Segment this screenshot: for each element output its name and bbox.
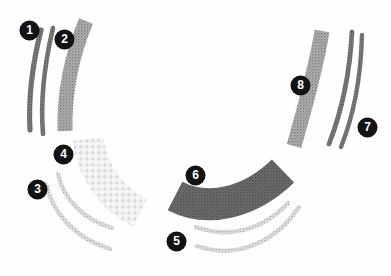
band-marker-3-label: 3: [34, 182, 41, 196]
band-marker-2-label: 2: [61, 32, 68, 46]
band-marker-3[interactable]: 3: [28, 180, 47, 199]
band-marker-5-label: 5: [173, 234, 180, 248]
band-marker-5[interactable]: 5: [167, 232, 186, 251]
figure-canvas: 1 2 3 4 5 6 7 8: [0, 0, 391, 276]
band-marker-8[interactable]: 8: [291, 76, 310, 95]
band-marker-7[interactable]: 7: [358, 118, 377, 137]
band-marker-8-label: 8: [297, 78, 304, 92]
band-marker-1[interactable]: 1: [20, 21, 39, 40]
band-marker-4[interactable]: 4: [54, 145, 73, 164]
band-marker-2[interactable]: 2: [55, 30, 74, 49]
band-4: [88, 139, 140, 213]
band-marker-4-label: 4: [60, 147, 67, 161]
band-marker-1-label: 1: [26, 23, 33, 37]
band-marker-7-label: 7: [364, 120, 371, 134]
band-7: [329, 32, 362, 147]
band-marker-6[interactable]: 6: [186, 166, 205, 185]
band-1: [30, 28, 53, 134]
band-marker-6-label: 6: [192, 168, 199, 182]
